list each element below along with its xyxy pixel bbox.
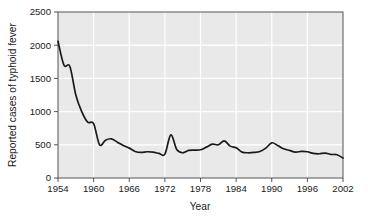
x-tick-label: 1966 xyxy=(119,183,140,194)
y-tick-label: 1500 xyxy=(30,73,51,84)
x-tick-label: 1978 xyxy=(190,183,211,194)
x-tick-label: 1996 xyxy=(297,183,318,194)
y-tick-label: 500 xyxy=(35,139,51,150)
y-tick-label: 2000 xyxy=(30,40,51,51)
x-axis-title: Year xyxy=(190,201,211,212)
x-tick-label: 1984 xyxy=(225,183,247,194)
typhoid-fever-line-chart: 05001000150020002500 1954196019661972197… xyxy=(0,0,368,221)
x-tick-label: 2002 xyxy=(332,183,353,194)
x-tick-label: 1960 xyxy=(83,183,104,194)
x-tick-label: 1972 xyxy=(154,183,175,194)
y-tick-label: 2500 xyxy=(30,6,51,17)
x-axis-ticks: 195419601966197219781984199019962002 xyxy=(47,178,353,194)
y-axis-ticks: 05001000150020002500 xyxy=(30,6,58,183)
x-tick-label: 1954 xyxy=(47,183,69,194)
x-tick-label: 1990 xyxy=(261,183,282,194)
y-tick-label: 1000 xyxy=(30,106,51,117)
y-axis-title: Reported cases of typhoid fever xyxy=(7,22,18,166)
y-tick-label: 0 xyxy=(46,172,51,183)
chart-figure: 05001000150020002500 1954196019661972197… xyxy=(0,0,368,221)
